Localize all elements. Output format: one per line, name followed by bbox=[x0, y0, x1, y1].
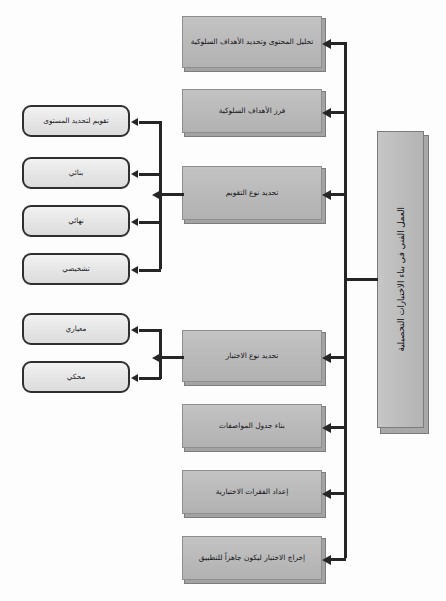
process-box-prepare-items[interactable]: إعداد الفقرات الاختبارية bbox=[182, 470, 322, 514]
arrow-leaf-diagnostic bbox=[131, 266, 138, 274]
process-box-spec-table[interactable]: بناء جدول المواصفات bbox=[182, 404, 322, 448]
branch-line-content-analysis bbox=[330, 42, 346, 45]
branch-line-sort-objectives bbox=[330, 111, 346, 114]
branch-line-evaluation-type bbox=[330, 193, 346, 196]
arrow-spec-table bbox=[322, 423, 331, 433]
process-label-sort-objectives: فرز الأهداف السلوكية bbox=[219, 105, 286, 116]
leaf-label-diagnostic: تشخيصي bbox=[62, 264, 89, 275]
evaluation-branch-summative bbox=[139, 221, 161, 224]
arrow-leaf-placement bbox=[131, 118, 138, 126]
process-box-test-type[interactable]: تحديد نوع الاختبار bbox=[182, 330, 322, 382]
leaf-box-diagnostic[interactable]: تشخيصي bbox=[22, 253, 130, 285]
arrow-leaf-formative bbox=[131, 170, 138, 178]
leaf-box-norm-referenced[interactable]: معياري bbox=[22, 313, 130, 345]
evaluation-feed-line bbox=[160, 193, 184, 196]
process-box-finalize-test[interactable]: إخراج الاختبار ليكون جاهزاً للتطبيق bbox=[182, 536, 322, 580]
leaf-label-placement: تقويم لتحديد المستوى bbox=[43, 116, 109, 127]
arrow-leaf-summative bbox=[131, 218, 138, 226]
process-label-prepare-items: إعداد الفقرات الاختبارية bbox=[216, 486, 288, 497]
diagram-canvas: العمل الفني في بناء الاختبارات التحصيلية… bbox=[0, 0, 446, 601]
leaf-box-summative[interactable]: نهائي bbox=[22, 205, 130, 237]
test-feed-line bbox=[160, 356, 184, 359]
evaluation-branch-placement bbox=[139, 121, 161, 124]
arrow-finalize-test bbox=[322, 555, 331, 565]
test-bus-line bbox=[159, 329, 162, 379]
leaf-label-criterion-referenced: محكي bbox=[67, 372, 85, 383]
arrow-leaf-norm-referenced bbox=[131, 326, 138, 334]
trunk-feed-line bbox=[344, 278, 378, 281]
arrow-prepare-items bbox=[322, 489, 331, 499]
leaf-box-placement[interactable]: تقويم لتحديد المستوى bbox=[22, 105, 130, 137]
process-box-content-analysis[interactable]: تحليل المحتوى وتحديد الأهداف السلوكية bbox=[182, 16, 322, 68]
process-box-sort-objectives[interactable]: فرز الأهداف السلوكية bbox=[182, 89, 322, 133]
leaf-box-criterion-referenced[interactable]: محكي bbox=[22, 361, 130, 393]
process-label-content-analysis: تحليل المحتوى وتحديد الأهداف السلوكية bbox=[191, 36, 314, 47]
branch-line-spec-table bbox=[330, 426, 346, 429]
branch-line-test-type bbox=[330, 356, 346, 359]
leaf-box-formative[interactable]: بنائي bbox=[22, 157, 130, 189]
trunk-vertical-line bbox=[344, 42, 347, 558]
arrow-evaluation-type bbox=[322, 190, 331, 200]
test-branch-criterion-referenced bbox=[139, 377, 161, 380]
branch-line-prepare-items bbox=[330, 492, 346, 495]
main-title-text: العمل الفني في بناء الاختبارات التحصيلية bbox=[396, 207, 406, 352]
arrow-test-type bbox=[322, 353, 331, 363]
evaluation-bus-line bbox=[159, 121, 162, 269]
process-label-test-type: تحديد نوع الاختبار bbox=[226, 350, 279, 361]
evaluation-branch-diagnostic bbox=[139, 269, 161, 272]
leaf-label-summative: نهائي bbox=[68, 216, 84, 227]
process-box-evaluation-type[interactable]: تحديد نوع التقويم bbox=[182, 166, 322, 220]
branch-line-finalize-test bbox=[330, 558, 346, 561]
process-label-evaluation-type: تحديد نوع التقويم bbox=[226, 187, 279, 198]
test-branch-norm-referenced bbox=[139, 329, 161, 332]
leaf-label-formative: بنائي bbox=[69, 168, 83, 179]
arrow-sort-objectives bbox=[322, 108, 331, 118]
process-label-spec-table: بناء جدول المواصفات bbox=[219, 420, 285, 431]
arrow-content-analysis bbox=[322, 39, 331, 49]
main-title-bar: العمل الفني في بناء الاختبارات التحصيلية bbox=[377, 131, 424, 428]
process-label-finalize-test: إخراج الاختبار ليكون جاهزاً للتطبيق bbox=[199, 552, 305, 563]
leaf-label-norm-referenced: معياري bbox=[66, 324, 87, 335]
arrow-leaf-criterion-referenced bbox=[131, 374, 138, 382]
evaluation-branch-formative bbox=[139, 173, 161, 176]
